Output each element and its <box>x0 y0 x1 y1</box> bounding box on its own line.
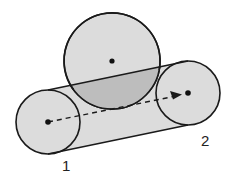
label-point-1: 1 <box>62 157 70 174</box>
label-point-2: 2 <box>201 132 209 149</box>
swept-circle-collision-diagram: 1 2 <box>0 0 230 175</box>
end-center-dot <box>185 90 191 96</box>
start-center-dot <box>45 119 51 125</box>
obstacle-center-dot <box>109 58 114 63</box>
